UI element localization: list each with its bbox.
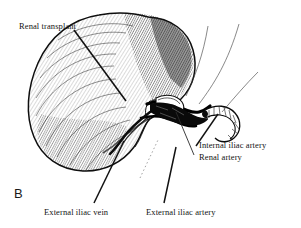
internal-iliac-artery-vessel [202,106,240,142]
suture-line-2 [199,24,239,104]
renal-transplant-illustration [0,0,301,228]
label-external-iliac-vein: External iliac vein [44,207,108,217]
label-renal-artery: Renal artery [199,152,242,162]
figure-panel-b: Renal transplant Internal iliac artery R… [0,0,301,228]
leader-external-iliac-artery [164,147,176,203]
suture-guide-lines [186,24,258,112]
label-external-iliac-artery: External iliac artery [146,207,216,217]
suture-line-3 [222,72,258,112]
panel-label: B [14,186,23,201]
label-renal-transplant: Renal transplant [19,21,76,31]
leader-guide-faint [140,140,158,178]
label-internal-iliac-artery: Internal iliac artery [199,140,266,150]
